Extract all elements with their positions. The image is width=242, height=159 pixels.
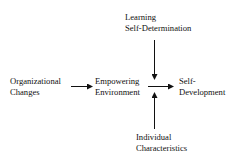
- diagram-arrows: [0, 0, 242, 159]
